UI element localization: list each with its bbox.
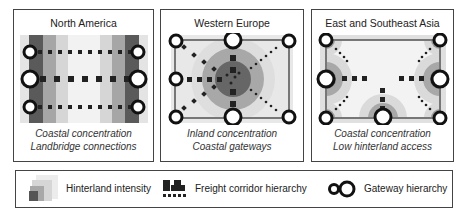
north-america-schematic [18, 33, 150, 125]
panel-caption: Inland concentration Coastal gateways [161, 127, 303, 153]
western-europe-schematic [165, 33, 299, 125]
panel-north-america: North America Coastal concentration Land… [13, 9, 154, 162]
panel-caption: Coastal concentration Landbridge connect… [14, 127, 153, 153]
panel-east-southeast-asia: East and Southeast Asia [311, 9, 454, 162]
legend: Hinterland intensity Freight corridor hi… [15, 170, 453, 208]
legend-label-hinterland: Hinterland intensity [66, 183, 151, 194]
gateway-circles-icon [328, 179, 356, 199]
legend-label-gateway: Gateway hierarchy [364, 183, 447, 194]
panel-caption: Coastal concentration Low hinterland acc… [312, 127, 453, 153]
legend-item-corridor: Freight corridor hierarchy [163, 171, 307, 206]
panel-title: East and Southeast Asia [312, 17, 453, 29]
hinterland-gradient-icon [28, 175, 58, 203]
panel-title: North America [14, 17, 153, 29]
panel-western-europe: Western Europe Inland concentration Coas… [160, 9, 304, 162]
legend-item-hinterland: Hinterland intensity [28, 171, 151, 206]
legend-item-gateway: Gateway hierarchy [328, 171, 447, 206]
corridor-bars-icon [163, 180, 187, 198]
panel-title: Western Europe [161, 17, 303, 29]
east-asia-schematic [316, 33, 450, 125]
legend-label-corridor: Freight corridor hierarchy [195, 183, 307, 194]
